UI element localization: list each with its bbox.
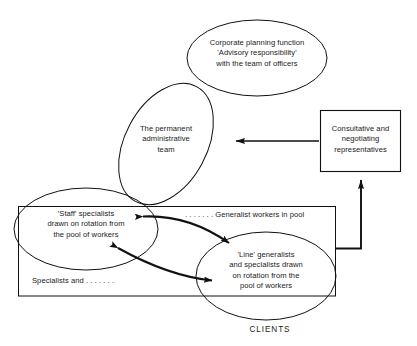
line-generalists-ellipse (196, 232, 336, 320)
diagram-canvas: Corporate planning function 'Advisory re… (0, 0, 417, 346)
diagram-vector-layer (0, 0, 417, 346)
administrative-team-ellipse (99, 67, 232, 220)
representatives-box (321, 111, 401, 172)
arrow-pool-to-representatives (336, 180, 361, 249)
corporate-planning-ellipse (187, 20, 327, 96)
